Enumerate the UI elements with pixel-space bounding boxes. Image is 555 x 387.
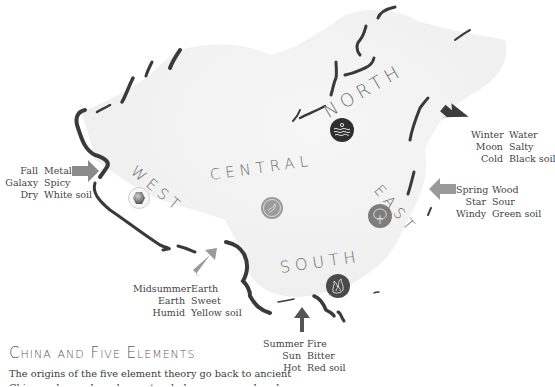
legend-value: Spicy	[44, 177, 70, 189]
legend-key: Cold	[471, 153, 509, 165]
fire-flame-icon	[326, 274, 350, 298]
legend-key: Sun	[263, 350, 307, 362]
legend-value: Metal	[44, 165, 72, 177]
legend-key: Midsummer	[133, 283, 191, 295]
legend-value: Red soil	[307, 362, 346, 374]
legend-value: Water	[509, 129, 538, 141]
legend-central: MidsummerEarth EarthSweet HumidYellow so…	[133, 283, 242, 319]
legend-key: Summer	[263, 338, 307, 350]
water-waves-icon	[330, 118, 354, 142]
legend-key: Star	[456, 196, 492, 208]
metal-hexagon-icon	[128, 187, 150, 209]
body-line-2-clipped: China and were based on natural phenomen…	[9, 381, 291, 386]
legend-key: Windy	[456, 208, 492, 220]
arrow-south-icon	[294, 307, 310, 332]
legend-west: FallMetal GalaxySpicy DryWhite soil	[0, 165, 92, 201]
legend-value: Green soil	[492, 208, 541, 220]
legend-key: Winter	[471, 129, 509, 141]
legend-value: Bitter	[307, 350, 335, 362]
tree-wood-icon	[368, 204, 392, 228]
legend-key: Galaxy	[0, 177, 44, 189]
legend-value: White soil	[44, 189, 92, 201]
legend-value: Earth	[191, 283, 218, 295]
legend-value: Salty	[509, 141, 533, 153]
legend-key: Spring	[456, 184, 492, 196]
legend-key: Dry	[0, 189, 44, 201]
body-text: The origins of the five element theory g…	[9, 367, 291, 386]
legend-value: Sour	[492, 196, 515, 208]
legend-value: Black soil	[509, 153, 555, 165]
arrow-central-icon	[193, 248, 217, 277]
arrow-east-icon	[429, 178, 456, 200]
legend-key: Earth	[133, 295, 191, 307]
legend-key: Moon	[471, 141, 509, 153]
legend-key: Fall	[0, 165, 44, 177]
legend-value: Fire	[307, 338, 327, 350]
body-line-1: The origins of the five element theory g…	[9, 368, 291, 379]
legend-key: Humid	[133, 307, 191, 319]
legend-value: Sweet	[191, 295, 221, 307]
legend-east: SpringWood StarSour WindyGreen soil	[456, 184, 541, 220]
legend-north: WinterWater MoonSalty ColdBlack soil	[471, 129, 555, 165]
legend-value: Yellow soil	[191, 307, 242, 319]
page-title: China and Five Elements	[9, 344, 196, 362]
earth-icon	[261, 197, 283, 219]
legend-value: Wood	[492, 184, 519, 196]
